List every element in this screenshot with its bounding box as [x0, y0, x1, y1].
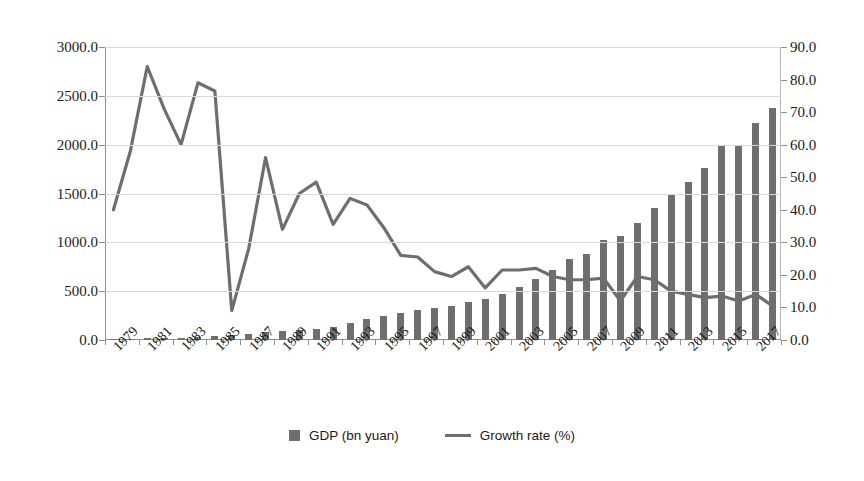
- x-axis-labels: 1979198119831985198719891991199319951997…: [105, 344, 781, 414]
- y-tick-left: [99, 145, 105, 146]
- y-tick-right: [781, 145, 787, 146]
- chart-root: 0.0500.01000.01500.02000.02500.03000.0 0…: [0, 0, 864, 481]
- y-tick-label-right: 30.0: [790, 235, 816, 250]
- y-tick-label-left: 2500.0: [57, 89, 98, 104]
- gridline: [105, 242, 781, 243]
- y-tick-right: [781, 47, 787, 48]
- y-tick-label-right: 0.0: [790, 333, 809, 348]
- y-tick-left: [99, 291, 105, 292]
- y-tick-label-right: 90.0: [790, 40, 816, 55]
- y-tick-label-left: 2000.0: [57, 138, 98, 153]
- y-tick-label-right: 20.0: [790, 268, 816, 283]
- chart-legend: GDP (bn yuan) Growth rate (%): [0, 428, 864, 443]
- y-tick-label-right: 60.0: [790, 138, 816, 153]
- legend-label-growth-rate: Growth rate (%): [480, 428, 575, 443]
- y-tick-left: [99, 47, 105, 48]
- y-tick-label-right: 10.0: [790, 300, 816, 315]
- y-tick-label-right: 40.0: [790, 203, 816, 218]
- y-tick-right: [781, 112, 787, 113]
- line-swatch-icon: [445, 434, 471, 437]
- y-tick-right: [781, 80, 787, 81]
- gridline: [105, 291, 781, 292]
- y-tick-right: [781, 210, 787, 211]
- gridline: [105, 47, 781, 48]
- gridline: [105, 96, 781, 97]
- y-tick-label-left: 500.0: [64, 284, 98, 299]
- y-tick-left: [99, 194, 105, 195]
- y-tick-left: [99, 242, 105, 243]
- y-axis-right-labels: 0.010.020.030.040.050.060.070.080.090.0: [790, 47, 860, 340]
- legend-label-gdp: GDP (bn yuan): [309, 428, 399, 443]
- plot-canvas: [105, 47, 781, 340]
- legend-item-gdp: GDP (bn yuan): [289, 428, 399, 443]
- y-tick-left: [99, 96, 105, 97]
- y-tick-right: [781, 307, 787, 308]
- y-tick-label-left: 3000.0: [57, 40, 98, 55]
- y-tick-right: [781, 275, 787, 276]
- growth-rate-line: [113, 67, 772, 311]
- gridline: [105, 145, 781, 146]
- chart-plot-area: 0.0500.01000.01500.02000.02500.03000.0 0…: [0, 0, 864, 481]
- gridline: [105, 194, 781, 195]
- y-tick-label-right: 50.0: [790, 170, 816, 185]
- y-tick-label-left: 0.0: [79, 333, 98, 348]
- y-tick-label-right: 80.0: [790, 73, 816, 88]
- y-tick-right: [781, 177, 787, 178]
- y-tick-label-right: 70.0: [790, 105, 816, 120]
- y-tick-right: [781, 242, 787, 243]
- legend-item-growth-rate: Growth rate (%): [445, 428, 575, 443]
- bar-swatch-icon: [289, 430, 300, 441]
- y-axis-left-labels: 0.0500.01000.01500.02000.02500.03000.0: [8, 47, 98, 340]
- x-tick: [781, 340, 782, 345]
- y-tick-label-left: 1000.0: [57, 235, 98, 250]
- y-tick-label-left: 1500.0: [57, 187, 98, 202]
